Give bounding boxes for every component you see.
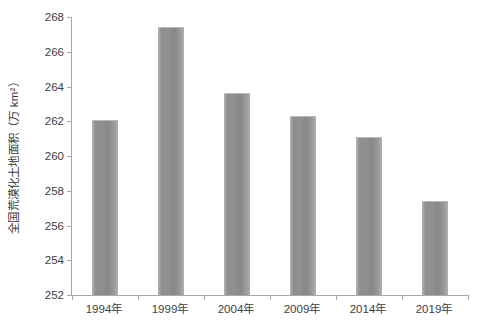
x-axis-tick-labels: 1994年1999年2004年2009年2014年2019年: [71, 299, 467, 323]
bar: [356, 137, 382, 295]
plot-area: [71, 17, 468, 296]
y-axis-title: 全国荒漠化土地面积（万 km²）: [0, 0, 26, 310]
x-axis-tick-label: 2014年: [335, 299, 401, 323]
y-axis-tick-label: 258: [45, 185, 64, 197]
bar-slot: [204, 17, 270, 295]
y-axis-tick-label: 254: [45, 254, 64, 266]
bar: [422, 201, 448, 295]
x-axis-tick-label: 2019年: [401, 299, 467, 323]
x-axis-tick-label: 1999年: [137, 299, 203, 323]
y-axis-tick-label: 252: [45, 289, 64, 301]
y-axis-tick-label: 266: [45, 46, 64, 58]
x-axis-tick-mark: [468, 295, 469, 300]
bar: [290, 116, 316, 295]
y-axis-tick-labels: 252254256258260262264266268: [26, 0, 68, 330]
bar-slot: [336, 17, 402, 295]
y-axis-tick-label: 260: [45, 150, 64, 162]
bar-slot: [138, 17, 204, 295]
bar: [92, 120, 118, 295]
x-axis-tick-label: 1994年: [71, 299, 137, 323]
bar-slot: [72, 17, 138, 295]
bar-slot: [402, 17, 468, 295]
bar: [158, 27, 184, 295]
y-axis-tick-label: 268: [45, 11, 64, 23]
bar-slot: [270, 17, 336, 295]
y-axis-tick-label: 262: [45, 115, 64, 127]
y-axis-tick-label: 256: [45, 220, 64, 232]
y-axis-title-text: 全国荒漠化土地面积（万 km²）: [5, 76, 21, 234]
bar-series: [72, 17, 468, 295]
bar: [224, 93, 250, 295]
y-axis-tick-label: 264: [45, 81, 64, 93]
bar-chart: 全国荒漠化土地面积（万 km²） 25225425625826026226426…: [0, 0, 479, 330]
x-axis-tick-label: 2004年: [203, 299, 269, 323]
x-axis-tick-label: 2009年: [269, 299, 335, 323]
